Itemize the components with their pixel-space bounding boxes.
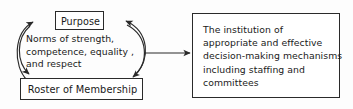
- institution-line-1: The institution of: [203, 23, 339, 36]
- norms-line-1: Norms of strength,: [26, 33, 146, 46]
- institution-line-3: decision-making mechanisms: [203, 49, 339, 62]
- node-purpose-label: Purpose: [56, 12, 105, 31]
- node-roster-of-membership: Roster of Membership: [20, 78, 143, 100]
- institution-line-5: committees: [203, 76, 339, 89]
- institution-line-4: including staffing and: [203, 63, 339, 76]
- diagram-canvas: Purpose Roster of Membership The institu…: [0, 0, 353, 109]
- node-institution: The institution of appropriate and effec…: [192, 13, 340, 98]
- norms-line-2: competence, equality ,: [26, 46, 146, 59]
- node-institution-text: The institution of appropriate and effec…: [203, 23, 339, 89]
- norms-line-3: and respect: [26, 58, 146, 71]
- node-roster-label: Roster of Membership: [21, 79, 144, 101]
- annotation-norms: Norms of strength, competence, equality …: [26, 33, 146, 71]
- institution-line-2: appropriate and effective: [203, 36, 339, 49]
- node-purpose: Purpose: [55, 11, 104, 30]
